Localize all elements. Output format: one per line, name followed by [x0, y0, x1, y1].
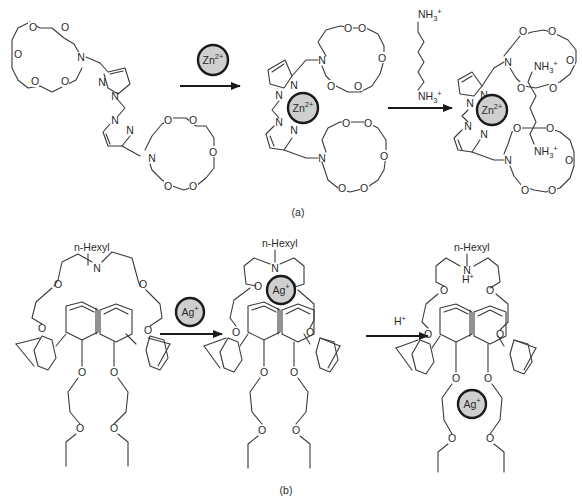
- svg-text:O: O: [164, 114, 172, 126]
- svg-text:NH3+: NH3+: [534, 59, 558, 75]
- svg-text:O: O: [38, 322, 46, 334]
- caption-b: (b): [280, 484, 293, 496]
- zn-diammonium-complex: N N N O O O O O NH3+ NH3+ N N N: [454, 25, 576, 196]
- svg-text:N: N: [275, 89, 283, 101]
- svg-text:O: O: [354, 80, 362, 92]
- svg-text:N: N: [290, 79, 298, 91]
- svg-text:O: O: [452, 372, 460, 384]
- panel-b: n-Hexyl N O O O O O O: [16, 237, 536, 496]
- svg-text:O: O: [110, 366, 118, 378]
- svg-text:N: N: [466, 97, 474, 109]
- arrow-ag-addition: Ag+: [160, 298, 222, 334]
- svg-text:N: N: [275, 116, 283, 128]
- svg-text:NH3+: NH3+: [418, 7, 442, 23]
- svg-text:N: N: [504, 154, 512, 166]
- svg-text:O: O: [496, 328, 504, 340]
- svg-text:O: O: [364, 117, 372, 129]
- arrow-diamine-addition: NH3+ NH3+: [388, 7, 452, 108]
- svg-text:O: O: [360, 182, 368, 194]
- svg-text:O: O: [189, 114, 197, 126]
- svg-text:O: O: [344, 22, 352, 34]
- ligand-free: O O O O O N N N N N N O O O: [12, 21, 217, 192]
- calixcrown-ag-complex: n-Hexyl N O O O O O O: [204, 237, 340, 468]
- svg-text:O: O: [484, 372, 492, 384]
- svg-text:N: N: [148, 152, 156, 164]
- svg-text:O: O: [78, 366, 86, 378]
- svg-text:O: O: [260, 366, 268, 378]
- svg-text:N: N: [504, 56, 512, 68]
- svg-text:O: O: [338, 182, 346, 194]
- svg-text:O: O: [14, 48, 22, 60]
- svg-text:O: O: [448, 432, 456, 444]
- svg-text:O: O: [139, 278, 147, 290]
- svg-text:O: O: [144, 324, 152, 336]
- svg-text:n-Hexyl: n-Hexyl: [74, 241, 110, 253]
- svg-text:O: O: [61, 75, 69, 87]
- svg-text:H+: H+: [394, 314, 407, 327]
- svg-text:H+: H+: [462, 272, 475, 285]
- svg-text:N: N: [77, 51, 85, 63]
- svg-text:O: O: [565, 154, 573, 166]
- svg-text:N: N: [271, 262, 279, 274]
- svg-text:O: O: [513, 122, 521, 134]
- calixcrown-protonated: n-Hexyl N H+ O O O O O O: [396, 241, 536, 472]
- caption-a: (a): [292, 206, 305, 218]
- svg-text:O: O: [164, 180, 172, 192]
- svg-text:O: O: [566, 54, 574, 66]
- svg-text:O: O: [110, 422, 118, 434]
- svg-text:O: O: [358, 22, 366, 34]
- svg-text:N: N: [464, 120, 472, 132]
- svg-text:O: O: [54, 278, 62, 290]
- svg-text:O: O: [232, 326, 240, 338]
- svg-text:O: O: [29, 21, 37, 33]
- svg-text:N: N: [98, 76, 106, 88]
- svg-text:NH3+: NH3+: [418, 89, 442, 105]
- svg-text:O: O: [519, 25, 527, 37]
- svg-text:O: O: [549, 82, 557, 94]
- svg-text:O: O: [378, 52, 386, 64]
- svg-text:O: O: [327, 80, 335, 92]
- panel-a: O O O O O N N N N N N O O O: [12, 7, 576, 218]
- svg-text:O: O: [548, 25, 556, 37]
- svg-text:O: O: [258, 424, 266, 436]
- svg-text:O: O: [521, 184, 529, 196]
- svg-text:O: O: [548, 184, 556, 196]
- svg-text:O: O: [61, 21, 69, 33]
- svg-text:N: N: [126, 124, 134, 136]
- svg-text:N: N: [480, 128, 488, 140]
- svg-text:n-Hexyl: n-Hexyl: [262, 237, 298, 249]
- svg-text:O: O: [517, 82, 525, 94]
- reaction-scheme: O O O O O N N N N N N O O O: [0, 0, 582, 500]
- svg-text:O: O: [546, 122, 554, 134]
- svg-text:O: O: [424, 328, 432, 340]
- svg-text:O: O: [254, 280, 262, 292]
- svg-text:O: O: [380, 150, 388, 162]
- svg-text:O: O: [292, 424, 300, 436]
- svg-text:N: N: [111, 114, 119, 126]
- svg-text:O: O: [486, 284, 494, 296]
- svg-text:n-Hexyl: n-Hexyl: [454, 241, 490, 253]
- svg-text:O: O: [76, 422, 84, 434]
- svg-text:O: O: [342, 117, 350, 129]
- svg-text:NH3+: NH3+: [534, 144, 558, 160]
- svg-text:N: N: [290, 124, 298, 136]
- svg-text:N: N: [93, 262, 101, 274]
- zn-complex: N N N O O O O O N N N O O O O O: [266, 22, 389, 194]
- arrow-zn-addition: Zn2+: [180, 45, 240, 86]
- arrow-proton-addition: H+: [366, 314, 428, 336]
- calixcrown-free: n-Hexyl N O O O O O O: [16, 241, 170, 466]
- svg-text:O: O: [290, 366, 298, 378]
- svg-text:N: N: [318, 54, 326, 66]
- svg-text:O: O: [440, 284, 448, 296]
- svg-text:O: O: [31, 75, 39, 87]
- svg-text:O: O: [189, 180, 197, 192]
- svg-text:O: O: [486, 432, 494, 444]
- svg-text:O: O: [209, 146, 217, 158]
